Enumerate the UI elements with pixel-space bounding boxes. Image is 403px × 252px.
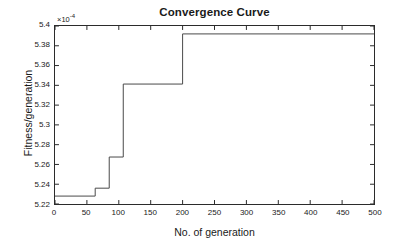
y-axis-title: Fitness/generation [22, 28, 34, 198]
plot-area [54, 25, 375, 205]
x-tick-label: 300 [240, 209, 253, 217]
x-axis-tick-labels: 050100150200250300350400450500 [54, 209, 375, 221]
x-tick-label: 500 [368, 209, 381, 217]
x-tick-label: 200 [176, 209, 189, 217]
x-tick-label: 250 [208, 209, 221, 217]
y-axis-exponent-mantissa: ×10 [57, 15, 70, 24]
x-tick-label: 150 [144, 209, 157, 217]
y-tick-label: 5.22 [16, 201, 50, 209]
x-axis-title: No. of generation [54, 226, 375, 239]
x-tick-label: 0 [52, 209, 56, 217]
x-tick-label: 350 [272, 209, 285, 217]
y-axis-exponent-power: -4 [70, 13, 75, 19]
x-tick-label: 100 [112, 209, 125, 217]
convergence-curve-figure: Convergence Curve ×10-4 5.225.245.265.28… [0, 0, 403, 252]
x-tick-label: 450 [336, 209, 349, 217]
fitness-series-polyline [55, 34, 374, 196]
x-tick-label: 400 [304, 209, 317, 217]
y-axis-exponent-label: ×10-4 [57, 12, 75, 24]
convergence-curve-line [55, 26, 374, 204]
chart-title: Convergence Curve [54, 5, 375, 19]
x-tick-label: 50 [82, 209, 91, 217]
axis-tick-marks [55, 26, 374, 204]
